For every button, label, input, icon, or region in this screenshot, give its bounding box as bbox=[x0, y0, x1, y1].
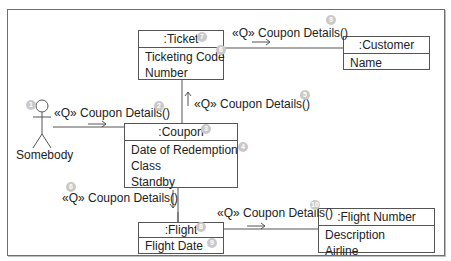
flight-title: :Flight bbox=[139, 223, 223, 238]
message-ticket-to-customer: «Q» Coupon Details() bbox=[232, 26, 348, 40]
flight-attr: Flight Date bbox=[145, 238, 217, 254]
coupon-attr: Date of Redemption bbox=[131, 142, 231, 158]
coupon-attr: Standby bbox=[131, 174, 231, 190]
message-badge: 9 bbox=[326, 15, 336, 25]
actor-head bbox=[36, 100, 48, 112]
flight-attr-badge: 9 bbox=[207, 238, 217, 248]
message-badge: 10 bbox=[310, 200, 320, 210]
ticket-title: :Ticket bbox=[139, 31, 223, 48]
message-actor-to-coupon: «Q» Coupon Details() bbox=[54, 106, 170, 120]
actor-label: Somebody bbox=[16, 148, 73, 162]
message-coupon-to-ticket: «Q» Coupon Details() bbox=[194, 97, 310, 111]
ticket-title-badge: 7 bbox=[197, 32, 207, 42]
flight-number-title: :Flight Number bbox=[319, 209, 434, 226]
message-badge: 5 bbox=[300, 90, 310, 100]
customer-title: :Customer bbox=[344, 37, 429, 54]
actor-badge: 1 bbox=[26, 100, 36, 110]
flight-number-attr: Description bbox=[325, 227, 428, 243]
flight-title-badge: 8 bbox=[196, 222, 206, 232]
flight-number-attr: Airline bbox=[325, 243, 428, 259]
coupon-title: :Coupon bbox=[125, 124, 237, 141]
coupon-object[interactable]: :Coupon Date of Redemption Class Standby bbox=[124, 123, 238, 188]
message-badge: 6 bbox=[66, 182, 76, 192]
message-badge: 2 bbox=[154, 101, 164, 111]
message-coupon-to-flight: «Q» Coupon Details() bbox=[62, 191, 178, 205]
customer-object[interactable]: :Customer Name bbox=[343, 36, 430, 70]
ticket-attr: Ticketing Code bbox=[145, 49, 217, 65]
ticket-attr: Number bbox=[145, 65, 217, 81]
coupon-attr-badge: 4 bbox=[238, 142, 248, 152]
customer-attr: Name bbox=[350, 55, 423, 71]
flight-number-object[interactable]: :Flight Number Description Airline bbox=[318, 208, 435, 253]
coupon-title-badge: 3 bbox=[201, 124, 211, 134]
ticket-attr-badge: 6 bbox=[216, 45, 226, 55]
coupon-attr: Class bbox=[131, 158, 231, 174]
ticket-object[interactable]: :Ticket Ticketing Code Number bbox=[138, 30, 224, 80]
